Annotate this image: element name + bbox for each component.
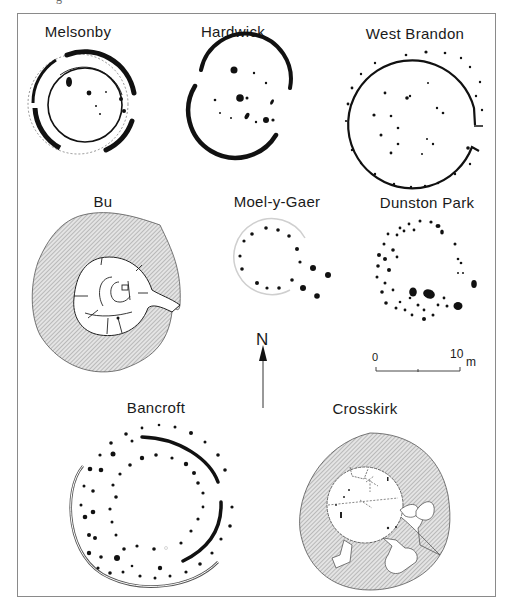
north-arrow-icon bbox=[259, 345, 267, 408]
plan-melsonby bbox=[28, 52, 134, 154]
plan-crosskirk bbox=[300, 433, 450, 590]
plan-hardwick bbox=[188, 34, 291, 158]
plan-bancroft bbox=[71, 424, 234, 587]
plan-west-brandon bbox=[345, 50, 483, 188]
plan-bu bbox=[32, 213, 180, 372]
scale-bar bbox=[376, 367, 460, 372]
plan-dunston-park bbox=[376, 220, 477, 322]
plan-moel-y-gaer bbox=[234, 219, 331, 299]
